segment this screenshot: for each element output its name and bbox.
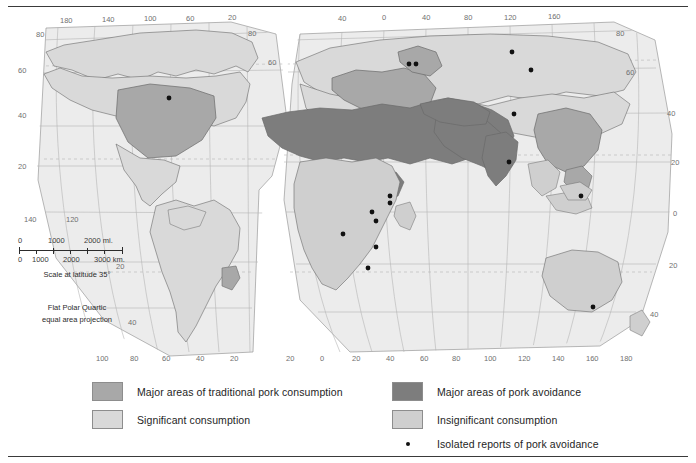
glabel-w-top-100: 100: [144, 14, 157, 23]
scale-miles-labels: 0 1000 2000 mi.: [18, 236, 136, 247]
scale-rule: [18, 247, 136, 254]
glabel-w-corner-right-80: 80: [248, 29, 256, 38]
glabel-w-bot-20: 20: [230, 354, 238, 363]
map-figure: 180 140 100 60 20 80 80 60 40 20 140 120…: [0, 0, 696, 463]
glabel-e-top-40w: 40: [338, 14, 346, 23]
projection-note-line1: Flat Polar Quartic: [18, 302, 136, 314]
glabel-w-bottom-120: 120: [66, 215, 79, 224]
scale-km-0: 0: [18, 255, 22, 264]
scale-mi-1000: 1000: [48, 236, 65, 245]
isolated-report-dot: [510, 50, 515, 55]
glabel-e-bot-140: 140: [552, 354, 565, 363]
isolated-report-dot: [507, 160, 512, 165]
isolated-report-dot: [374, 245, 379, 250]
glabel-e-lat-0: 0: [673, 209, 677, 218]
glabel-e-bot-40: 40: [386, 354, 394, 363]
legend-item-insignificant-consumption: Insignificant consumption: [392, 410, 557, 429]
glabel-w-top-140: 140: [102, 15, 115, 24]
isolated-report-dot: [529, 68, 534, 73]
glabel-e-bot-120: 120: [518, 354, 531, 363]
scale-km-1000: 1000: [32, 255, 49, 264]
isolated-report-dot: [374, 219, 379, 224]
legend-swatch-significant-consumption: [92, 410, 123, 429]
isolated-report-dot: [167, 96, 172, 101]
isolated-report-dot: [366, 266, 371, 271]
glabel-e-corner-right-80: 80: [616, 29, 624, 38]
glabel-e-bot-20e: 20: [352, 354, 360, 363]
glabel-w-bot-40: 40: [196, 354, 204, 363]
scale-km-labels: 0 1000 2000 3000 km.: [18, 254, 136, 266]
glabel-w-bot-100: 100: [96, 354, 109, 363]
isolated-report-dot: [388, 201, 393, 206]
glabel-e-bot-0: 0: [320, 354, 324, 363]
glabel-w-bot-80: 80: [130, 354, 138, 363]
glabel-w-top-60: 60: [186, 14, 194, 23]
glabel-e-bot-60: 60: [420, 354, 428, 363]
glabel-w-lat-20: 20: [18, 162, 26, 171]
legend-item-major-avoidance: Major areas of pork avoidance: [392, 382, 581, 401]
glabel-e-bot-180: 180: [620, 354, 633, 363]
glabel-e-lat-20s: 20: [669, 261, 677, 270]
legend-label-isolated-reports: Isolated reports of pork avoidance: [437, 438, 599, 450]
scale-bar: 0 1000 2000 mi. 0 1000 2000 3000 km. Sca…: [18, 236, 136, 279]
isolated-report-dot: [414, 62, 419, 67]
legend-dot-icon: [392, 442, 423, 446]
glabel-w-bottom-140: 140: [24, 215, 37, 224]
isolated-report-dot: [512, 112, 517, 117]
legend-swatch-major-avoidance: [392, 382, 423, 401]
glabel-e-lat-60: 60: [626, 68, 634, 77]
legend-item-isolated-reports: Isolated reports of pork avoidance: [392, 438, 599, 450]
glabel-w-top-20: 20: [228, 13, 236, 22]
glabel-w-top-180: 180: [60, 16, 73, 25]
glabel-e-top-40e: 40: [422, 13, 430, 22]
isolated-report-dot: [370, 210, 375, 215]
glabel-e-bot-160: 160: [586, 354, 599, 363]
isolated-report-dot: [341, 232, 346, 237]
legend-item-major-consumption: Major areas of traditional pork consumpt…: [92, 382, 343, 401]
projection-note-line2: equal area projection: [18, 314, 136, 326]
isolated-report-dot: [388, 194, 393, 199]
glabel-e-bot-100: 100: [484, 354, 497, 363]
glabel-e-lat-40s: 40: [650, 310, 658, 319]
glabel-w-bot-60: 60: [162, 354, 170, 363]
legend-item-significant-consumption: Significant consumption: [92, 410, 250, 429]
isolated-report-dot: [407, 62, 412, 67]
scale-caption: Scale at latitude 35°: [18, 270, 136, 279]
glabel-w-corner-left-80: 80: [36, 30, 44, 39]
legend-label-insignificant-consumption: Insignificant consumption: [437, 414, 557, 426]
scale-km-3000: 3000 km.: [94, 255, 125, 264]
scale-mi-2000: 2000 mi.: [84, 236, 113, 245]
legend-swatch-insignificant-consumption: [392, 410, 423, 429]
glabel-e-top-80: 80: [464, 13, 472, 22]
glabel-e-corner-left-60: 60: [268, 58, 276, 67]
glabel-w-lat-40: 40: [18, 111, 26, 120]
scale-mi-0: 0: [18, 236, 22, 245]
map-lobe-old-world: [262, 22, 672, 352]
glabel-e-top-120: 120: [504, 13, 517, 22]
projection-note: Flat Polar Quartic equal area projection: [18, 302, 136, 326]
isolated-report-dot: [591, 305, 596, 310]
legend-label-significant-consumption: Significant consumption: [137, 414, 250, 426]
glabel-e-bot-20w: 20: [286, 354, 294, 363]
legend-swatch-major-consumption: [92, 382, 123, 401]
glabel-e-top-0: 0: [382, 13, 386, 22]
glabel-e-bot-80: 80: [452, 354, 460, 363]
glabel-e-top-160: 160: [548, 12, 561, 21]
map-legend: Major areas of traditional pork consumpt…: [0, 378, 696, 456]
legend-label-major-avoidance: Major areas of pork avoidance: [437, 386, 581, 398]
isolated-report-dot: [579, 194, 584, 199]
legend-label-major-consumption: Major areas of traditional pork consumpt…: [137, 386, 343, 398]
glabel-w-lat-60: 60: [18, 66, 26, 75]
scale-km-2000: 2000: [63, 255, 80, 264]
glabel-e-lat-20: 20: [671, 158, 679, 167]
glabel-e-lat-40: 40: [667, 109, 675, 118]
